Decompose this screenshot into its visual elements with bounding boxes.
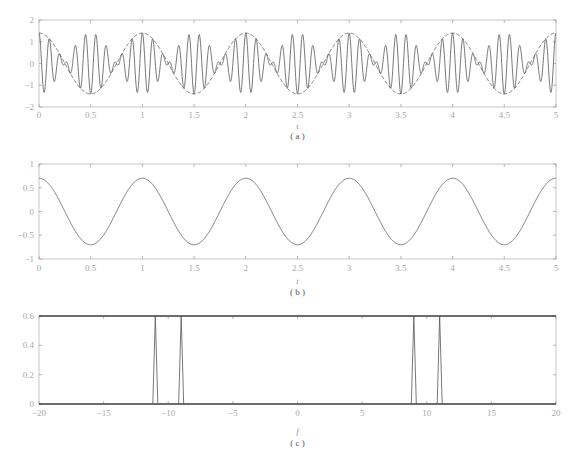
y-tick-label: 2 [30,15,35,25]
y-tick-label: −2 [24,102,34,112]
x-tick-label: 15 [487,408,497,418]
axes-frame [39,316,556,404]
x-tick-label: 2.5 [292,263,304,273]
x-tick-label: 10 [422,408,432,418]
x-tick-label: 0.5 [85,263,97,273]
panel-caption: ( a ) [290,131,305,141]
x-tick-label: 1.5 [188,110,200,120]
x-tick-label: 1 [140,110,145,120]
x-tick-label: 2.5 [292,110,304,120]
spectral-line [411,316,416,404]
x-tick-label: 3.5 [395,263,407,273]
y-tick-label: 0.2 [23,370,34,380]
spectral-line [153,316,158,404]
x-axis-label: t [296,276,299,286]
y-tick-label: 1 [30,159,35,169]
x-tick-label: 0 [37,110,42,120]
x-tick-label: −10 [161,408,176,418]
x-tick-label: 0.5 [85,110,97,120]
x-tick-label: 2 [244,110,249,120]
x-tick-label: −20 [32,408,47,418]
x-tick-label: 3.5 [395,110,407,120]
x-tick-label: 0 [37,263,42,273]
figure: 00.511.522.533.544.55210−1−2t( a )00.511… [0,0,573,461]
x-axis-label: t [296,121,299,131]
x-tick-label: 5 [360,408,365,418]
x-tick-label: 3 [347,110,352,120]
series-demodulated [39,178,556,245]
panel-caption: ( b ) [290,287,305,297]
x-tick-label: 1 [140,263,145,273]
x-tick-label: 5 [554,110,559,120]
x-tick-label: 2 [244,263,249,273]
x-tick-label: 4 [450,263,455,273]
x-tick-label: 1.5 [188,263,200,273]
y-tick-label: 0 [30,399,35,409]
y-tick-label: −1 [24,80,34,90]
x-tick-label: 5 [554,263,559,273]
y-tick-label: 0 [30,59,35,69]
panel-c: −20−15−10−5051015200.60.40.20f( c ) [23,311,561,448]
y-tick-label: 0.4 [23,340,35,350]
x-tick-label: 4.5 [499,110,511,120]
x-tick-label: 20 [552,408,562,418]
panel-a: 00.511.522.533.544.55210−1−2t( a ) [24,15,558,141]
panel-caption: ( c ) [290,438,305,448]
spectral-line [437,316,442,404]
x-axis-label: f [296,426,300,436]
panel-b: 00.511.522.533.544.5510.50−0.5−1t( b ) [18,159,559,297]
spectral-line [179,316,184,404]
y-tick-label: −1 [24,254,34,264]
y-tick-label: 0.6 [23,311,35,321]
x-tick-label: 4 [450,110,455,120]
y-tick-label: −0.5 [18,230,35,240]
x-tick-label: 4.5 [499,263,511,273]
x-tick-label: −5 [228,408,238,418]
x-tick-label: 3 [347,263,352,273]
x-tick-label: 0 [295,408,300,418]
y-tick-label: 0.5 [23,183,35,193]
y-tick-label: 0 [30,207,35,217]
x-tick-label: −15 [97,408,112,418]
y-tick-label: 1 [30,37,35,47]
